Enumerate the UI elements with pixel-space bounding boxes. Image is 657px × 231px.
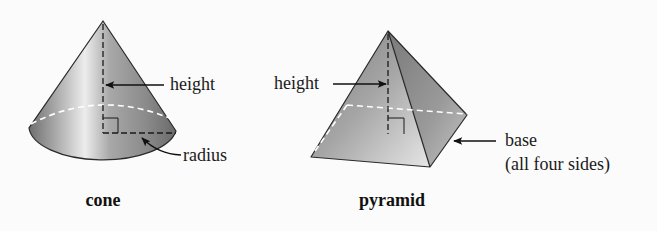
pyramid-base-sublabel: (all four sides) <box>505 154 610 175</box>
geometry-diagram: height radius cone height base (all four… <box>0 0 657 231</box>
pyramid-caption: pyramid <box>359 190 425 210</box>
cone-radius-label: radius <box>183 145 227 165</box>
cone-height-label: height <box>170 74 215 94</box>
pyramid-height-label: height <box>274 73 319 93</box>
pyramid-figure: height base (all four sides) pyramid <box>274 31 610 210</box>
pyramid-base-label: base <box>505 130 537 150</box>
cone-figure: height radius cone <box>29 21 227 210</box>
cone-caption: cone <box>86 190 121 210</box>
